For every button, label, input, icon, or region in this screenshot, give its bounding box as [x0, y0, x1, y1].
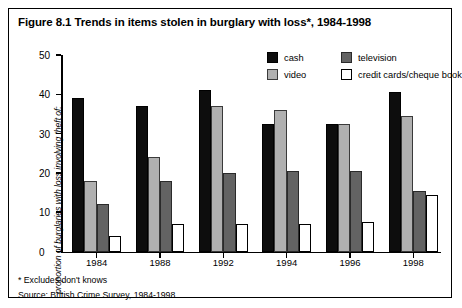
x-axis-label-1992: 1992 — [213, 257, 234, 268]
x-axis-label-1988: 1988 — [149, 257, 170, 268]
bar-television-1992 — [223, 173, 235, 252]
bar-video-1984 — [84, 181, 96, 252]
chart-legend: cash television video credit cards/chequ… — [267, 52, 447, 84]
legend-swatch-cash-icon — [267, 52, 278, 63]
figure-source: Source: British Crime Survey, 1984-1998 — [18, 290, 175, 300]
bar-credit-1992 — [236, 224, 248, 252]
x-axis-label-1996: 1996 — [339, 257, 360, 268]
legend-swatch-television-icon — [341, 52, 352, 63]
bar-television-1988 — [160, 181, 172, 252]
bar-cash-1992 — [199, 90, 211, 251]
y-tick-label: 0 — [39, 246, 50, 257]
bar-television-1994 — [287, 171, 299, 252]
bar-credit-1998 — [426, 195, 438, 252]
bar-cash-1996 — [326, 124, 338, 252]
bar-television-1998 — [413, 191, 425, 252]
bar-video-1998 — [401, 116, 413, 252]
x-axis-label-1998: 1998 — [403, 257, 424, 268]
y-tick-mark — [56, 54, 61, 56]
legend-swatch-credit-cards-icon — [341, 69, 352, 80]
bar-cash-1998 — [389, 92, 401, 251]
chart-plot-area: 01020304050 198419881992199419961998 pro… — [61, 55, 441, 253]
bar-cash-1988 — [136, 106, 148, 251]
bar-credit-1996 — [362, 222, 374, 251]
bar-television-1984 — [97, 204, 109, 251]
x-axis-line — [61, 252, 441, 254]
bar-credit-1988 — [172, 224, 184, 252]
bar-group — [136, 55, 185, 252]
y-axis-title: proportion of burglaries with loss invol… — [53, 101, 67, 299]
figure-title: Figure 8.1 Trends in items stolen in bur… — [18, 16, 371, 28]
bar-group — [326, 55, 375, 252]
bar-group — [199, 55, 248, 252]
legend-item-television: television — [341, 52, 397, 63]
bar-cash-1994 — [262, 124, 274, 252]
legend-label-television: television — [358, 53, 397, 63]
legend-item-credit-cards: credit cards/cheque book — [341, 69, 462, 80]
y-tick-label: 20 — [39, 167, 50, 178]
bar-video-1988 — [148, 157, 160, 251]
y-tick-label: 50 — [39, 50, 50, 61]
bar-credit-1994 — [299, 224, 311, 252]
legend-label-cash: cash — [284, 53, 304, 63]
legend-item-cash: cash — [267, 52, 304, 63]
y-tick-label: 10 — [39, 207, 50, 218]
y-tick-label: 40 — [39, 89, 50, 100]
bar-group — [262, 55, 311, 252]
y-tick-label: 30 — [39, 128, 50, 139]
bar-group — [389, 55, 438, 252]
bar-credit-1984 — [109, 236, 121, 252]
bar-video-1992 — [211, 106, 223, 251]
figure-footnote: * Excludes don't knows — [18, 275, 107, 285]
bar-television-1996 — [350, 171, 362, 252]
bar-cash-1984 — [72, 98, 84, 251]
legend-label-credit-cards: credit cards/cheque book — [358, 70, 462, 80]
x-axis-label-1984: 1984 — [86, 257, 107, 268]
legend-swatch-video-icon — [267, 69, 278, 80]
bar-video-1996 — [338, 124, 350, 252]
legend-item-video: video — [267, 69, 306, 80]
y-tick-mark — [56, 94, 61, 96]
bar-video-1994 — [274, 110, 286, 251]
figure-container: Figure 8.1 Trends in items stolen in bur… — [8, 8, 452, 298]
bar-group — [72, 55, 121, 252]
legend-label-video: video — [284, 70, 306, 80]
x-axis-label-1994: 1994 — [276, 257, 297, 268]
